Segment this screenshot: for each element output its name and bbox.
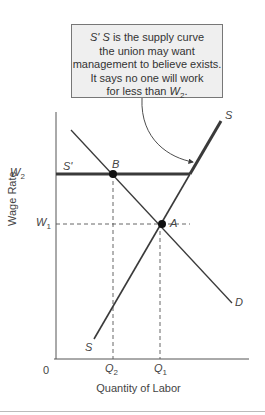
w1-tick-var: W [36,216,46,228]
demand-label: D [235,296,243,308]
s-prime-label: S' [63,160,72,172]
q1-tick-label: Q1 [154,362,167,377]
w2-tick-sub: 2 [20,172,24,181]
point-a-label: A [170,217,177,229]
q1-tick-sub: 1 [163,368,167,377]
bottom-rule [0,411,265,412]
q1-tick-var: Q [154,362,163,374]
point-a [158,220,166,228]
w1-tick-sub: 1 [46,222,50,231]
demand-curve [71,130,232,303]
origin-label: 0 [43,364,49,376]
supply-curve-upper [190,121,221,174]
q2-tick-label: Q2 [105,362,118,377]
supply-bottom-label: S [85,341,92,353]
supply-curve [94,174,190,339]
point-b-label: B [112,158,119,170]
q2-tick-var: Q [105,362,114,374]
x-axis-label: Quantity of Labor [0,382,265,394]
labor-market-diagram [0,0,265,415]
point-b [109,170,117,178]
q2-tick-sub: 2 [114,368,118,377]
w1-tick-label: W1 [36,216,51,231]
callout-arrow [142,98,193,162]
y-axis-label: Wage Rate [6,171,18,226]
supply-top-label: S [225,109,232,121]
